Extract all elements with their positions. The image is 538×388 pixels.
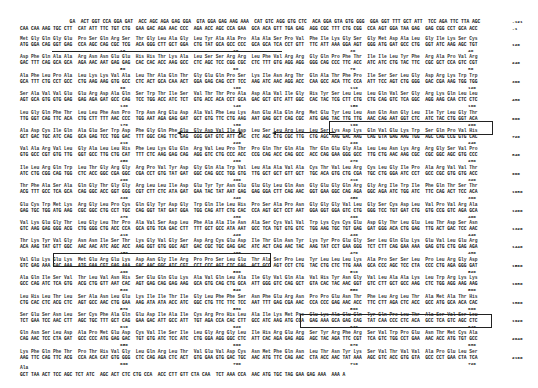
nt-end-number: 1560 bbox=[512, 263, 523, 268]
aa-position-number: 100 bbox=[233, 85, 241, 90]
aa-position-number: 160 bbox=[468, 103, 476, 108]
nt-end-number: 240 bbox=[512, 60, 520, 65]
nt-row: AGT GCA GTG GTG GAG GAG AGA GAT GCC CAG … bbox=[20, 97, 478, 103]
aa-position-number: 270 bbox=[350, 158, 358, 163]
aa-position-number: 670 bbox=[350, 342, 358, 347]
aa-position-number: 400 bbox=[468, 214, 476, 219]
aa-position-number: 430 bbox=[350, 232, 358, 237]
aa-position-number: 140 bbox=[233, 103, 241, 108]
aa-position-number: 710 bbox=[350, 361, 358, 366]
aa-position-number: 80 bbox=[468, 66, 473, 71]
aa-position-number: 440 bbox=[468, 232, 476, 237]
nt-row: ATC CTG CGG CAG TGG CTC ACC GGC CGA GGC … bbox=[20, 171, 478, 177]
left-arrow bbox=[275, 132, 335, 133]
header-end-number-1: -121 bbox=[512, 19, 523, 24]
boxed-peptide-2 bbox=[53, 253, 271, 267]
nt-row: GCA TTT CTG CCT GCC CTG AAG AAG GTG GCC … bbox=[20, 79, 478, 85]
aa-position-number: 30 bbox=[350, 48, 355, 53]
nt-row: ACG TTT GCC TCA GCA CAG GGC ACC GGT GGG … bbox=[20, 189, 478, 195]
nt-row: GTG GCC CGT GTG TTG GGT GCC TTG CTG CAT … bbox=[20, 152, 478, 158]
aa-position-number: 590 bbox=[350, 306, 358, 311]
aa-position-number: 650 bbox=[120, 342, 128, 347]
boxed-peptide-1 bbox=[329, 121, 493, 135]
aa-position-number: 180 bbox=[233, 122, 241, 127]
aa-position-number: 720 bbox=[468, 361, 476, 366]
aa-position-number: 320 bbox=[468, 177, 476, 182]
aa-position-number: 130 bbox=[120, 103, 128, 108]
aa-position-number: 470 bbox=[350, 250, 358, 255]
aa-position-number: 240 bbox=[468, 140, 476, 145]
aa-position-number: 340 bbox=[233, 195, 241, 200]
aa-position-number: 260 bbox=[233, 158, 241, 163]
tail-aa-row: Ala bbox=[20, 365, 28, 371]
nt-row: CAG AAC TCC CTA GAT GCC CCC ATG GAG GAC … bbox=[20, 336, 478, 342]
nt-end-number: 480 bbox=[512, 97, 520, 102]
nt-end-number: 960 bbox=[512, 171, 520, 176]
nt-end-number: 840 bbox=[512, 152, 520, 157]
aa-position-number: 550 bbox=[350, 287, 358, 292]
aa-position-number: 250 bbox=[120, 158, 128, 163]
aa-position-number: 50 bbox=[120, 66, 125, 71]
aa-position-number: 580 bbox=[233, 306, 241, 311]
aa-position-number: 120 bbox=[468, 85, 476, 90]
aa-position-number: 500 bbox=[233, 269, 241, 274]
tail-nt-row: GCT TAA ACT TCC AGC TCT ATC AGC ACT CTC … bbox=[20, 372, 345, 378]
nt-end-number: 1800 bbox=[512, 300, 523, 305]
nt-end-number: 2040 bbox=[512, 336, 523, 341]
aa-position-number: 690 bbox=[120, 361, 128, 366]
nt-end-number: 1920 bbox=[512, 318, 523, 323]
aa-position-number: 680 bbox=[468, 342, 476, 347]
nt-end-number: 1080 bbox=[512, 189, 523, 194]
aa-position-number: 330 bbox=[120, 195, 128, 200]
aa-position-number: 300 bbox=[233, 177, 241, 182]
aa-position-number: 90 bbox=[120, 85, 125, 90]
aa-position-number: 420 bbox=[233, 232, 241, 237]
nt-row: ATG GGA CAG GGT GAG CCA AGC CAG CGC TCG … bbox=[20, 42, 478, 48]
aa-position-number: 570 bbox=[120, 306, 128, 311]
nt-row: GCC CAG ATC TCA GTG ACG CTG GTT AAT CAC … bbox=[20, 281, 478, 287]
aa-position-number: 60 bbox=[233, 66, 238, 71]
aa-position-number: 610 bbox=[120, 324, 128, 329]
nt-row: AAG TTC CAG TTC ACG CCA ACA CAT GTG GGG … bbox=[20, 355, 478, 361]
aa-position-number: 390 bbox=[350, 214, 358, 219]
nt-row: GAC TTT CAG GCA GCA AGA AAC AAT GAG GAG … bbox=[20, 60, 478, 66]
aa-position-number: 310 bbox=[350, 177, 358, 182]
underline-annotation bbox=[52, 51, 282, 52]
aa-position-number: 700 bbox=[233, 361, 241, 366]
header-nt-row-2: CAA CAA AAG TGC CTT CAT ATT TTC TGT CTG … bbox=[20, 26, 478, 32]
aa-position-number: 360 bbox=[468, 195, 476, 200]
nt-end-number: 360 bbox=[512, 79, 520, 84]
aa-position-number: 280 bbox=[468, 158, 476, 163]
aa-position-number: 40 bbox=[468, 48, 473, 53]
aa-position-number: 620 bbox=[233, 324, 241, 329]
aa-position-number: 510 bbox=[350, 269, 358, 274]
aa-position-number: 350 bbox=[350, 195, 358, 200]
double-arrow-1 bbox=[180, 132, 240, 133]
aa-position-number: 540 bbox=[233, 287, 241, 292]
aa-position-number: 410 bbox=[120, 232, 128, 237]
aa-position-number: 110 bbox=[350, 85, 358, 90]
aa-position-number: 520 bbox=[468, 269, 476, 274]
aa-position-number: 210 bbox=[120, 140, 128, 145]
nt-end-number: 2160 bbox=[512, 355, 523, 360]
aa-position-number: 220 bbox=[233, 140, 241, 145]
nt-row: CTG CAC CTC ACG CTC AGT GCC AAC CTG GAA … bbox=[20, 300, 478, 306]
aa-position-number: 560 bbox=[468, 287, 476, 292]
nt-end-number: 1320 bbox=[512, 226, 523, 231]
boxed-peptide-3 bbox=[300, 314, 492, 328]
aa-position-number: 150 bbox=[350, 103, 358, 108]
nt-end-number: 600 bbox=[512, 116, 520, 121]
nt-end-number: 1440 bbox=[512, 244, 523, 249]
nt-end-number: 1200 bbox=[512, 208, 523, 213]
aa-position-number: 370 bbox=[120, 214, 128, 219]
aa-position-number: 490 bbox=[120, 269, 128, 274]
header-end-number-2: -1 bbox=[512, 26, 517, 31]
aa-position-number: 660 bbox=[233, 342, 241, 347]
nt-row: ACA AAG TAT GTT GGC AAC AAC ATC AGC ACC … bbox=[20, 244, 478, 250]
nt-end-number: 120 bbox=[512, 42, 520, 47]
aa-position-number: 290 bbox=[120, 177, 128, 182]
nt-row: GTC AAG GAG GGG ACG CTG GGG CTG ACC CCA … bbox=[20, 226, 478, 232]
aa-position-number: 70 bbox=[350, 66, 355, 71]
aa-position-number: 170 bbox=[120, 122, 128, 127]
aa-position-number: 480 bbox=[468, 250, 476, 255]
